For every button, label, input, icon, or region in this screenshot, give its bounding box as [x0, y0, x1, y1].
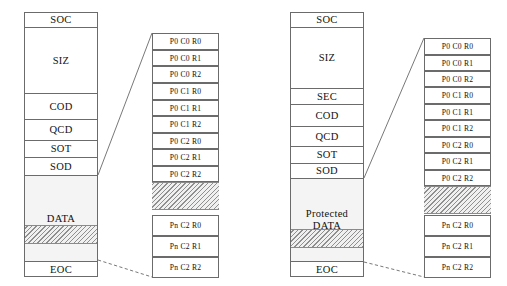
segment-label: EOC	[316, 264, 338, 276]
packet-label: P0 C1 R1	[170, 104, 202, 113]
packet-label: P0 C0 R1	[442, 59, 474, 68]
segment-qcd: QCD	[25, 120, 97, 141]
packet-label: Pn C2 R0	[170, 221, 202, 230]
segment-siz: SIZ	[25, 28, 97, 94]
packet-label: Pn C2 R1	[170, 242, 202, 251]
segment-eoc: EOC	[25, 261, 97, 278]
segment-label: SOC	[50, 14, 71, 26]
packet-row: P0 C1 R0	[152, 83, 219, 100]
segment-sot: SOT	[25, 141, 97, 158]
packet-ellipsis-hatch	[424, 186, 491, 214]
data-hatch-band	[25, 225, 97, 244]
packet-label: P0 C0 R1	[170, 54, 202, 63]
segment-label: QCD	[49, 124, 72, 136]
packet-label: Pn C2 R2	[442, 263, 474, 272]
codestream-figure: SOC SIZ COD QCD SOT SOD DATA EOC	[0, 0, 507, 286]
protected-codestream-diagram: SOC SIZ SEC COD QCD SOT SOD Protected	[253, 0, 507, 286]
segment-label: SIZ	[53, 55, 70, 67]
packet-row: Pn C2 R1	[152, 236, 219, 257]
segment-cod: COD	[291, 105, 363, 127]
packet-row: P0 C0 R0	[152, 33, 219, 50]
segment-protected-data: Protected DATA	[291, 179, 363, 261]
packet-row: Pn C2 R0	[152, 215, 219, 236]
packet-row: P0 C0 R2	[152, 66, 219, 83]
packet-row: Pn C2 R2	[424, 257, 491, 278]
segment-label: EOC	[50, 264, 72, 276]
segment-label: SOD	[50, 161, 72, 173]
packet-row: P0 C2 R2	[424, 170, 491, 186]
packet-label: Pn C2 R2	[170, 263, 202, 272]
codestream-box-right: SOC SIZ SEC COD QCD SOT SOD Protected	[290, 12, 364, 277]
segment-label: SOC	[316, 14, 337, 26]
packet-row: P0 C1 R0	[424, 87, 491, 104]
packet-label: Pn C2 R0	[442, 221, 474, 230]
packet-label: P0 C1 R1	[442, 108, 474, 117]
segment-qcd: QCD	[291, 127, 363, 147]
packet-label: P0 C0 R2	[442, 75, 474, 84]
packet-row: P0 C0 R2	[424, 71, 491, 87]
segment-data: DATA	[25, 176, 97, 261]
segment-cod: COD	[25, 94, 97, 120]
segment-sec: SEC	[291, 89, 363, 105]
packet-row: P0 C2 R0	[424, 137, 491, 153]
segment-soc: SOC	[25, 13, 97, 28]
packet-row: Pn C2 R1	[424, 236, 491, 257]
packet-row: P0 C1 R2	[152, 116, 219, 133]
packet-label: P0 C1 R0	[442, 91, 474, 100]
packet-row: Pn C2 R0	[424, 215, 491, 236]
packet-label: P0 C2 R0	[170, 137, 202, 146]
packet-label: P0 C2 R2	[442, 174, 474, 183]
segment-eoc: EOC	[291, 261, 363, 278]
segment-label: SIZ	[319, 52, 336, 64]
segment-label-line1: Protected	[306, 208, 348, 220]
packet-label: P0 C1 R2	[442, 124, 474, 133]
packet-row: P0 C2 R0	[152, 133, 219, 149]
segment-label: SOD	[316, 165, 338, 177]
packet-ellipsis-hatch	[152, 182, 219, 210]
packet-label: P0 C2 R0	[442, 141, 474, 150]
packet-label: P0 C0 R2	[170, 70, 202, 79]
packet-label: Pn C2 R1	[442, 242, 474, 251]
packet-label: P0 C0 R0	[442, 42, 474, 51]
packet-label: P0 C2 R1	[170, 153, 202, 162]
segment-label: SOT	[317, 149, 338, 161]
segment-sot: SOT	[291, 147, 363, 164]
codestream-box-left: SOC SIZ COD QCD SOT SOD DATA EOC	[24, 12, 98, 277]
packet-row: P0 C1 R1	[152, 100, 219, 116]
segment-soc: SOC	[291, 13, 363, 28]
packet-row: P0 C0 R0	[424, 38, 491, 55]
packet-row: P0 C2 R1	[152, 149, 219, 166]
segment-label: SEC	[317, 91, 337, 103]
packet-row: P0 C2 R2	[152, 166, 219, 182]
segment-label-line2: DATA	[313, 220, 341, 232]
packet-row: Pn C2 R2	[152, 257, 219, 278]
packet-label: P0 C1 R2	[170, 120, 202, 129]
packet-row: P0 C2 R1	[424, 153, 491, 170]
segment-sod: SOD	[291, 164, 363, 179]
segment-label: SOT	[51, 143, 72, 155]
packet-detail-right: P0 C0 R0 P0 C0 R1 P0 C0 R2 P0 C1 R0 P0 C…	[424, 38, 491, 278]
segment-label: COD	[315, 110, 338, 122]
data-hatch-band	[291, 229, 363, 248]
packet-row: P0 C0 R1	[152, 50, 219, 66]
packet-row: P0 C1 R1	[424, 104, 491, 120]
packet-label: P0 C2 R1	[442, 157, 474, 166]
packet-label: P0 C0 R0	[170, 37, 202, 46]
packet-label: P0 C2 R2	[170, 170, 202, 179]
segment-sod: SOD	[25, 158, 97, 176]
packet-row: P0 C0 R1	[424, 55, 491, 71]
packet-label: P0 C1 R0	[170, 87, 202, 96]
segment-siz: SIZ	[291, 28, 363, 89]
packet-row: P0 C1 R2	[424, 120, 491, 137]
plain-codestream-diagram: SOC SIZ COD QCD SOT SOD DATA EOC	[0, 0, 254, 286]
packet-detail-left: P0 C0 R0 P0 C0 R1 P0 C0 R2 P0 C1 R0 P0 C…	[152, 33, 219, 278]
segment-label: COD	[49, 101, 72, 113]
segment-label: QCD	[315, 131, 338, 143]
segment-label: DATA	[47, 213, 75, 225]
